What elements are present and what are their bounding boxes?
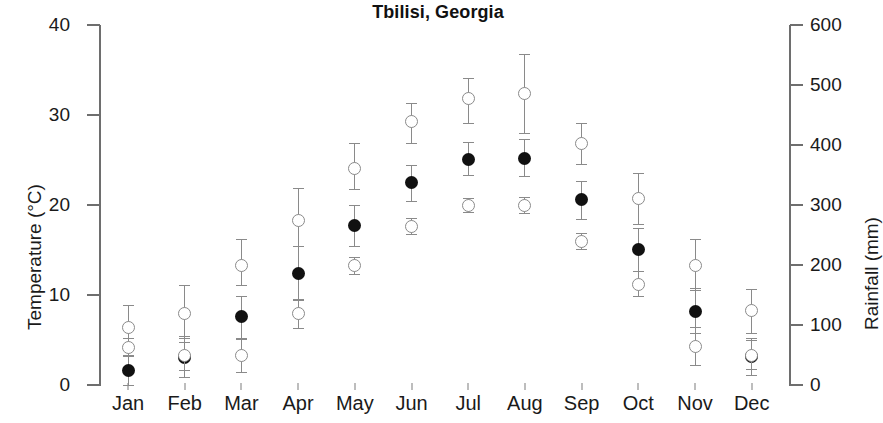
datapoint-rainfall-upper-nov-error-cap-lower	[690, 290, 701, 291]
datapoint-rainfall-upper-jul-error-cap-upper	[463, 78, 474, 79]
datapoint-temperature-aug	[518, 152, 531, 165]
x-axis-tick	[751, 383, 753, 390]
datapoint-temperature-oct-error-cap-upper	[633, 228, 644, 229]
right-axis-tick	[790, 144, 803, 146]
datapoint-rainfall-lower-may	[348, 259, 361, 272]
x-axis-tick	[297, 383, 299, 390]
datapoint-rainfall-lower-jun	[405, 220, 418, 233]
right-axis-tick	[790, 84, 803, 86]
x-axis-tick	[581, 383, 583, 390]
datapoint-temperature-jul-error-cap-lower	[463, 175, 474, 176]
x-axis-tick	[467, 383, 469, 390]
left-axis-tick	[87, 204, 100, 206]
datapoint-rainfall-upper-sep-error-cap-lower	[576, 164, 587, 165]
datapoint-rainfall-lower-nov	[689, 340, 702, 353]
x-axis-label-oct: Oct	[609, 392, 667, 414]
datapoint-rainfall-lower-feb-error-cap-lower	[179, 370, 190, 371]
datapoint-temperature-may-error-cap-upper	[349, 205, 360, 206]
left-axis-tick-label: 30	[49, 105, 70, 124]
datapoint-rainfall-upper-nov-error-cap-upper	[690, 239, 701, 240]
right-axis-tick-label: 400	[810, 135, 842, 154]
datapoint-rainfall-lower-jun-error-cap-upper	[406, 218, 417, 219]
datapoint-rainfall-lower-sep-error-cap-upper	[576, 233, 587, 234]
datapoint-rainfall-upper-apr	[292, 214, 305, 227]
datapoint-temperature-nov	[689, 305, 702, 318]
datapoint-rainfall-lower-nov-error-cap-upper	[690, 327, 701, 328]
datapoint-rainfall-upper-jul	[462, 92, 475, 105]
left-axis-tick-label: 10	[49, 285, 70, 304]
datapoint-rainfall-upper-aug	[518, 87, 531, 100]
datapoint-rainfall-upper-may-error-cap-lower	[349, 189, 360, 190]
datapoint-rainfall-lower-oct-error-cap-lower	[633, 296, 644, 297]
right-axis-tick-label: 0	[810, 375, 821, 394]
right-axis-tick	[790, 384, 803, 386]
datapoint-rainfall-upper-apr-error-cap-upper	[293, 188, 304, 189]
x-axis-label-jul: Jul	[439, 392, 497, 414]
datapoint-rainfall-lower-jan-error-cap-lower	[123, 356, 134, 357]
datapoint-rainfall-upper-aug-error-cap-upper	[519, 54, 530, 55]
datapoint-rainfall-upper-oct-error-cap-lower	[633, 224, 644, 225]
datapoint-rainfall-lower-may-error-cap-lower	[349, 274, 360, 275]
x-axis-label-jan: Jan	[99, 392, 157, 414]
x-axis-tick	[694, 383, 696, 390]
datapoint-rainfall-lower-jan	[122, 341, 135, 354]
datapoint-rainfall-upper-may	[348, 162, 361, 175]
left-axis-tick	[87, 294, 100, 296]
datapoint-rainfall-upper-feb-error-cap-lower	[179, 338, 190, 339]
datapoint-rainfall-lower-feb-error-cap-upper	[179, 342, 190, 343]
right-axis-tick	[790, 324, 803, 326]
datapoint-temperature-jan-error-cap-lower	[123, 385, 134, 386]
right-axis-tick-label: 300	[810, 195, 842, 214]
x-axis-tick	[411, 383, 413, 390]
chart-title: Tbilisi, Georgia	[0, 2, 876, 23]
datapoint-rainfall-upper-oct-error-cap-upper	[633, 173, 644, 174]
datapoint-rainfall-upper-mar-error-cap-upper	[236, 239, 247, 240]
x-axis-label-dec: Dec	[723, 392, 781, 414]
right-axis-tick-label: 100	[810, 315, 842, 334]
datapoint-rainfall-lower-nov-error-cap-lower	[690, 365, 701, 366]
datapoint-temperature-sep-error-cap-upper	[576, 181, 587, 182]
datapoint-rainfall-lower-apr-error-cap-upper	[293, 299, 304, 300]
datapoint-temperature-sep	[575, 193, 588, 206]
datapoint-rainfall-lower-sep-error-cap-lower	[576, 249, 587, 250]
datapoint-rainfall-lower-aug-error-cap-lower	[519, 213, 530, 214]
right-axis-tick-label: 200	[810, 255, 842, 274]
datapoint-rainfall-lower-jun-error-cap-lower	[406, 234, 417, 235]
datapoint-temperature-aug-error-cap-lower	[519, 176, 530, 177]
x-axis-label-aug: Aug	[496, 392, 554, 414]
x-axis-label-may: May	[326, 392, 384, 414]
datapoint-temperature-feb-error-cap-lower	[179, 377, 190, 378]
datapoint-rainfall-lower-sep	[575, 235, 588, 248]
datapoint-rainfall-lower-mar-error-cap-upper	[236, 338, 247, 339]
datapoint-rainfall-lower-jul	[462, 199, 475, 212]
left-axis-tick	[87, 384, 100, 386]
datapoint-rainfall-upper-feb-error-cap-upper	[179, 285, 190, 286]
datapoint-temperature-jun	[405, 176, 418, 189]
datapoint-temperature-jun-error-cap-upper	[406, 165, 417, 166]
datapoint-rainfall-upper-oct	[632, 192, 645, 205]
right-axis-title: Rainfall (mm)	[861, 217, 883, 330]
right-axis-tick	[790, 24, 803, 26]
datapoint-temperature-aug-error-cap-upper	[519, 139, 530, 140]
datapoint-rainfall-upper-dec-error-cap-lower	[746, 333, 757, 334]
left-axis-tick-label: 0	[59, 375, 70, 394]
datapoint-rainfall-upper-aug-error-cap-lower	[519, 133, 530, 134]
left-axis-tick-label: 20	[49, 195, 70, 214]
datapoint-rainfall-upper-jan	[122, 321, 135, 334]
datapoint-rainfall-upper-may-error-cap-upper	[349, 143, 360, 144]
right-axis-tick-label: 500	[810, 75, 842, 94]
datapoint-rainfall-upper-dec	[745, 304, 758, 317]
datapoint-rainfall-upper-mar	[235, 259, 248, 272]
datapoint-rainfall-lower-jan-error-cap-upper	[123, 338, 134, 339]
left-axis-tick	[87, 24, 100, 26]
x-axis-label-nov: Nov	[666, 392, 724, 414]
datapoint-temperature-dec-error-cap-lower	[746, 375, 757, 376]
datapoint-temperature-may	[348, 219, 361, 232]
datapoint-rainfall-upper-nov	[689, 259, 702, 272]
x-axis-label-mar: Mar	[212, 392, 270, 414]
right-axis-tick	[790, 204, 803, 206]
datapoint-rainfall-upper-mar-error-cap-lower	[236, 285, 247, 286]
datapoint-temperature-mar	[235, 310, 248, 323]
datapoint-rainfall-upper-dec-error-cap-upper	[746, 289, 757, 290]
